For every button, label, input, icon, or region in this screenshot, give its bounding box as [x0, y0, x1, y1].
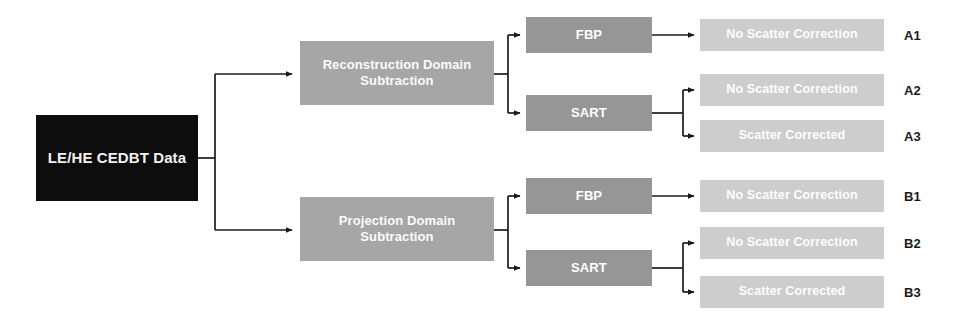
tag-b3: B3: [904, 281, 944, 303]
node-output-b3: Scatter Corrected: [700, 276, 884, 308]
tag-a3-label: A3: [904, 129, 921, 144]
node-sart-projection-branch-label: SART: [571, 260, 607, 276]
node-root-data-label: LE/HE CEDBT Data: [48, 149, 186, 168]
node-output-a1: No Scatter Correction: [700, 19, 884, 51]
node-root-data: LE/HE CEDBT Data: [36, 115, 198, 201]
node-projection-domain-subtraction: Projection Domain Subtraction: [300, 197, 494, 261]
node-output-b3-label: Scatter Corrected: [739, 284, 846, 300]
tag-a2-label: A2: [904, 83, 921, 98]
tag-a2: A2: [904, 79, 944, 101]
node-sart-reconstruction-branch: SART: [526, 95, 652, 131]
node-output-b1: No Scatter Correction: [700, 180, 884, 212]
node-output-b1-label: No Scatter Correction: [726, 188, 857, 204]
node-fbp-reconstruction-branch: FBP: [526, 17, 652, 53]
node-sart-reconstruction-branch-label: SART: [571, 105, 607, 121]
node-fbp-projection-branch-label: FBP: [576, 188, 602, 204]
node-output-b2-label: No Scatter Correction: [726, 235, 857, 251]
node-fbp-projection-branch: FBP: [526, 178, 652, 214]
node-projection-domain-subtraction-label: Projection Domain Subtraction: [339, 213, 456, 246]
node-output-a1-label: No Scatter Correction: [726, 27, 857, 43]
tag-a3: A3: [904, 125, 944, 147]
node-reconstruction-domain-subtraction-label: Reconstruction Domain Subtraction: [323, 57, 472, 90]
node-fbp-reconstruction-branch-label: FBP: [576, 27, 602, 43]
flowchart-figure: LE/HE CEDBT Data Reconstruction Domain S…: [0, 0, 957, 318]
node-output-b2: No Scatter Correction: [700, 227, 884, 259]
node-sart-projection-branch: SART: [526, 250, 652, 286]
tag-b1: B1: [904, 185, 944, 207]
node-reconstruction-domain-subtraction: Reconstruction Domain Subtraction: [300, 41, 494, 105]
tag-b1-label: B1: [904, 189, 921, 204]
node-output-a2-label: No Scatter Correction: [726, 82, 857, 98]
tag-a1-label: A1: [904, 28, 921, 43]
tag-a1: A1: [904, 24, 944, 46]
node-output-a2: No Scatter Correction: [700, 74, 884, 106]
tag-b3-label: B3: [904, 285, 921, 300]
tag-b2-label: B2: [904, 236, 921, 251]
node-output-a3: Scatter Corrected: [700, 120, 884, 152]
node-output-a3-label: Scatter Corrected: [739, 128, 846, 144]
tag-b2: B2: [904, 232, 944, 254]
